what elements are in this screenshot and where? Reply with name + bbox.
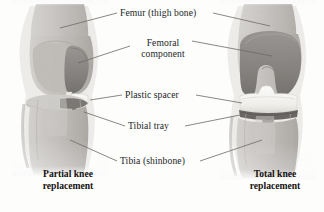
figure-container: Femur (thigh bone) Femoral component Pla… — [0, 0, 324, 212]
caption-total-knee-replacement: Total knee replacement — [232, 168, 318, 191]
label-femoral-component: Femoral component — [132, 37, 194, 59]
label-femoral-component-line2: component — [132, 48, 194, 59]
label-tibial-tray: Tibial tray — [128, 120, 169, 131]
caption-left-line1: Partial knee — [22, 168, 114, 180]
caption-left-line2: replacement — [22, 180, 114, 192]
caption-partial-knee-replacement: Partial knee replacement — [22, 168, 114, 191]
caption-right-line2: replacement — [232, 180, 318, 192]
label-femur: Femur (thigh bone) — [120, 7, 196, 18]
label-plastic-spacer: Plastic spacer — [125, 89, 179, 100]
partial-knee-illustration — [12, 0, 108, 176]
caption-right-line1: Total knee — [232, 168, 318, 180]
label-femoral-component-line1: Femoral — [132, 37, 194, 48]
label-tibia: Tibia (shinbone) — [120, 155, 185, 166]
